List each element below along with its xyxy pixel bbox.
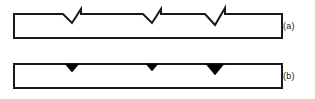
panel-a-label: (a) <box>283 22 309 31</box>
triangular-notch-2 <box>146 64 158 71</box>
triangular-notch-1 <box>65 64 79 72</box>
figure-root: (a) (b) <box>0 0 315 99</box>
panel-b-label: (b) <box>283 72 309 81</box>
specimen-b-drawing <box>0 50 315 99</box>
triangular-notch-3 <box>206 64 224 75</box>
specimen-a-drawing <box>0 0 315 49</box>
panel-a: (a) <box>0 0 315 49</box>
specimen-b-outline <box>14 64 282 88</box>
specimen-a-outline <box>14 8 282 38</box>
panel-b: (b) <box>0 50 315 99</box>
